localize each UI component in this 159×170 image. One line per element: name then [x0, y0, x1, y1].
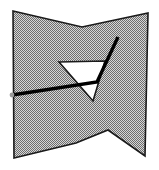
geometric-figure-svg — [0, 0, 159, 170]
figure-canvas — [0, 0, 159, 170]
ray-left-endpoint-marker — [10, 93, 15, 98]
